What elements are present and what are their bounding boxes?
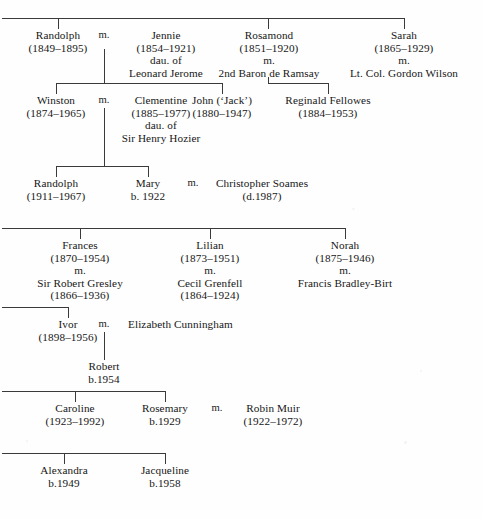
person-randolph-1911: Randolph (1911–1967) — [10, 177, 102, 202]
person-reginald-fellowes: Reginald Fellowes (1884–1953) — [266, 94, 390, 119]
spouse-name: Sir Robert Gresley — [18, 277, 142, 290]
spouse-name: Francis Bradley-Birt — [278, 277, 412, 290]
paper-speckle — [26, 440, 28, 442]
person-name: Mary — [114, 177, 182, 190]
person-dates: (1884–1953) — [266, 107, 390, 120]
person-lilian: Lilian (1873–1951) m. Cecil Grenfell (18… — [154, 239, 266, 302]
sibling-bar-ramsay-children — [268, 83, 328, 84]
person-name: Elizabeth Cunningham — [128, 318, 288, 331]
person-dates: (1873–1951) — [154, 252, 266, 265]
person-alexandra: Alexandra b.1949 — [18, 464, 110, 489]
drop-mary — [148, 166, 149, 177]
marriage-mark-rosemary-muir: m. — [205, 402, 229, 414]
person-rosamond: Rosamond (1851–1920) m. 2nd Baron de Ram… — [214, 29, 324, 79]
sibling-bar-generation-1 — [2, 18, 404, 19]
person-caroline: Caroline (1923–1992) — [29, 402, 121, 427]
sibling-bar-winston-children — [56, 166, 148, 167]
sibling-bar-churchill-children — [56, 83, 222, 84]
person-dates: (1870–1954) — [18, 252, 142, 265]
person-name: Robin Muir — [228, 402, 318, 415]
person-name: Reginald Fellowes — [266, 94, 390, 107]
sibling-bar-branch-4 — [2, 391, 165, 392]
person-dates: (1911–1967) — [10, 190, 102, 203]
person-name: Norah — [278, 239, 412, 252]
drop-rosamond — [268, 18, 269, 29]
marriage-mark-mary-soames: m. — [181, 177, 205, 189]
person-norah: Norah (1875–1946) m. Francis Bradley-Bir… — [278, 239, 412, 289]
drop-lilian — [210, 228, 211, 239]
paper-speckle — [352, 208, 355, 210]
marriage-mark: m. — [18, 264, 142, 277]
person-dates: (1849–1895) — [8, 42, 108, 55]
drop-randolph — [58, 18, 59, 29]
person-name: Frances — [18, 239, 142, 252]
marriage-line-randolph-jennie — [104, 49, 105, 83]
sibling-bar-branch-3 — [2, 307, 68, 308]
person-name: Rosemary — [125, 402, 205, 415]
person-dates: b.1949 — [18, 477, 110, 490]
person-dates: (1851–1920) — [214, 42, 324, 55]
marriage-mark: m. — [330, 54, 478, 67]
paper-speckle — [420, 370, 422, 372]
person-rosemary: Rosemary b.1929 — [125, 402, 205, 427]
person-name: Lilian — [154, 239, 266, 252]
person-dates: b. 1922 — [114, 190, 182, 203]
person-dates: (1898–1956) — [22, 331, 114, 344]
drop-reginald-fellowes — [328, 83, 329, 94]
person-dates: b.1929 — [125, 415, 205, 428]
person-jennie: Jennie (1854–1921) dau. of Leonard Jerom… — [114, 29, 218, 79]
person-name: John (‘Jack’) — [184, 94, 260, 107]
drop-jacqueline — [165, 453, 166, 464]
spouse-dates: (1864–1924) — [154, 289, 266, 302]
person-name: Robert — [70, 360, 138, 373]
person-note-parentage: dau. of — [114, 54, 218, 67]
spouse-dates: (1866–1936) — [18, 289, 142, 302]
drop-rosemary — [165, 391, 166, 402]
person-dates: (1923–1992) — [29, 415, 121, 428]
person-john-jack: John (‘Jack’) (1880–1947) — [184, 94, 260, 119]
drop-alexandra — [64, 453, 65, 464]
person-note-parent-name: Leonard Jerome — [114, 67, 218, 80]
marriage-line-winston-clementine — [104, 108, 105, 166]
person-elizabeth-cunningham: Elizabeth Cunningham — [128, 318, 288, 331]
marriage-mark: m. — [154, 264, 266, 277]
person-name: Caroline — [29, 402, 121, 415]
person-note-parentage: dau. of — [113, 119, 209, 132]
spouse-name: 2nd Baron de Ramsay — [214, 67, 324, 80]
person-name: Jennie — [114, 29, 218, 42]
drop-caroline — [75, 391, 76, 402]
drop-winston — [56, 83, 57, 94]
person-name: Christopher Soames — [203, 177, 321, 190]
person-dates: (1922–1972) — [228, 415, 318, 428]
person-dates: (1865–1929) — [330, 42, 478, 55]
person-name: Randolph — [10, 177, 102, 190]
family-tree-chart: Randolph (1849–1895) m. Jennie (1854–192… — [0, 0, 483, 519]
person-dates: (1880–1947) — [184, 107, 260, 120]
person-winston: Winston (1874–1965) — [10, 94, 102, 119]
marriage-mark: m. — [278, 264, 412, 277]
person-dates: b.1958 — [122, 477, 208, 490]
person-christopher-soames: Christopher Soames (d.1987) — [203, 177, 321, 202]
person-robert: Robert b.1954 — [70, 360, 138, 385]
drop-sarah — [404, 18, 405, 29]
drop-randolph-1911 — [56, 166, 57, 177]
drop-frances — [80, 228, 81, 239]
spouse-name: Cecil Grenfell — [154, 277, 266, 290]
person-dates: (1874–1965) — [10, 107, 102, 120]
paper-speckle — [404, 441, 407, 444]
marriage-mark-ivor-cunningham: m. — [92, 318, 116, 330]
sibling-bar-branch-2 — [2, 228, 345, 229]
person-name: Jacqueline — [122, 464, 208, 477]
person-name: Alexandra — [18, 464, 110, 477]
person-sarah: Sarah (1865–1929) m. Lt. Col. Gordon Wil… — [330, 29, 478, 79]
spouse-name: Lt. Col. Gordon Wilson — [330, 67, 478, 80]
sibling-bar-branch-5 — [2, 453, 165, 454]
person-robin-muir: Robin Muir (1922–1972) — [228, 402, 318, 427]
person-jacqueline: Jacqueline b.1958 — [122, 464, 208, 489]
marriage-line-ivor-cunningham — [104, 332, 105, 360]
person-name: Winston — [10, 94, 102, 107]
person-dates: (d.1987) — [203, 190, 321, 203]
person-mary: Mary b. 1922 — [114, 177, 182, 202]
drop-john-jack — [222, 83, 223, 94]
drop-ivor — [68, 307, 69, 318]
